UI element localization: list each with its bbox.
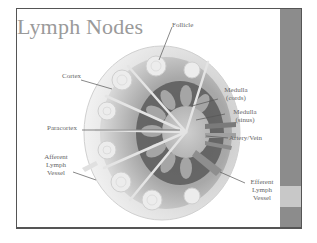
label-medulla-sinus-line1: Medulla	[230, 108, 260, 116]
label-afferent-line3: Vessel	[41, 169, 71, 177]
label-medulla-cords-line2: (cords)	[221, 94, 251, 102]
label-afferent-line1: Afferent	[41, 153, 71, 161]
label-efferent-lymph-vessel: Efferent Lymph Vessel	[247, 178, 277, 202]
label-cortex: Cortex	[62, 72, 81, 80]
label-medulla-cords: Medulla (cords)	[221, 86, 251, 102]
slide-title: Lymph Nodes	[17, 14, 143, 40]
label-efferent-line1: Efferent	[247, 178, 277, 186]
label-medulla-cords-line1: Medulla	[221, 86, 251, 94]
label-afferent-line2: Lymph	[41, 161, 71, 169]
label-afferent-lymph-vessel: Afferent Lymph Vessel	[41, 153, 71, 177]
label-medulla-sinus: Medulla (sinus)	[230, 108, 260, 124]
label-medulla-sinus-line2: (sinus)	[230, 116, 260, 124]
label-paracortex: Paracortex	[47, 124, 77, 132]
label-efferent-line3: Vessel	[247, 194, 277, 202]
label-efferent-line2: Lymph	[247, 186, 277, 194]
label-artery-vein: Artery/Vein	[229, 134, 262, 142]
label-follicle: Follicle	[172, 21, 193, 29]
